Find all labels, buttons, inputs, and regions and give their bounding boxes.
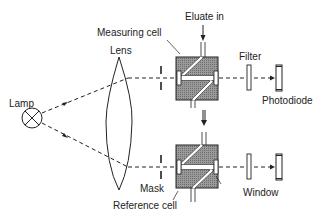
measuring-cell-label: Measuring cell [97,27,161,38]
lens-icon [106,57,132,190]
photodiode-label: Photodiode [262,95,313,106]
mask-label: Mask [140,183,164,194]
filter-upper [247,65,251,90]
reference-cell [176,145,218,202]
lens-label: Lens [110,45,132,56]
filter-lower [247,154,251,179]
window-left-upper [177,71,181,85]
window-right-lower [214,160,218,174]
lamp-label: Lamp [9,98,34,109]
window-right-upper [214,71,218,85]
measuring-cell [176,42,218,100]
eluate-in-label: Eluate in [185,11,224,22]
filter-label: Filter [239,51,261,62]
reference-cell-label: Reference cell [113,200,177,211]
eluate-in-arrow [201,25,206,41]
beam-arrowheads [62,76,275,170]
flow-arrow [201,110,207,126]
light-beams [42,78,272,167]
photodiode-upper [276,65,282,91]
photodiode-lower [276,154,282,180]
window-left-lower [177,160,181,174]
lamp-icon [22,108,42,128]
window-label: Window [243,187,279,198]
diagram-canvas [0,0,330,217]
